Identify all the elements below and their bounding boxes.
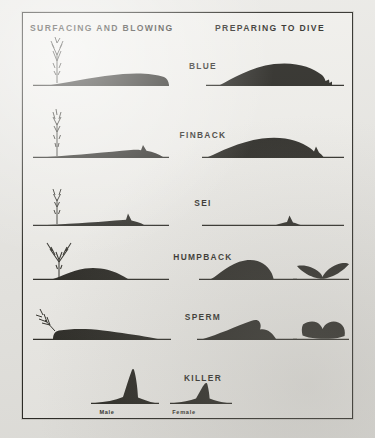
panel-finback-surfacing [31, 107, 171, 165]
humpback-surfacing-silhouette [53, 268, 128, 279]
killer-whale-male-silhouette [95, 369, 155, 403]
panel-sei-surfacing [31, 175, 171, 233]
panel-blue-diving [198, 35, 348, 93]
finback-surfacing-silhouette [47, 145, 163, 157]
blowhole-spout-icon [53, 189, 61, 224]
blowhole-spout-icon [36, 309, 55, 331]
panel-blue-surfacing [31, 35, 171, 93]
sei-diving-silhouette [276, 216, 301, 226]
panel-humpback-fluke [291, 229, 353, 287]
blowhole-spout-icon [53, 109, 61, 156]
panel-humpback-surfacing [31, 229, 171, 287]
sperm-whale-diving-silhouette [203, 320, 276, 339]
blowhole-spout-icon [47, 243, 71, 278]
header-preparing-to-dive: PREPARING TO DIVE [215, 23, 325, 33]
panel-killer-male [89, 353, 179, 411]
sperm-whale-fluke-silhouette [302, 321, 345, 338]
plate-border: SURFACING AND BLOWING PREPARING TO DIVE … [22, 12, 353, 419]
blue-whale-surfacing-silhouette [51, 73, 169, 85]
header-surfacing-and-blowing: SURFACING AND BLOWING [30, 23, 174, 33]
panel-sei-diving [198, 175, 348, 233]
panel-killer-female [168, 353, 258, 411]
killer-male-label: Male [79, 409, 135, 415]
sperm-whale-surfacing-silhouette [53, 329, 158, 339]
killer-female-label: Female [156, 409, 212, 415]
illustration-plate: SURFACING AND BLOWING PREPARING TO DIVE … [0, 0, 375, 438]
sei-surfacing-silhouette [47, 214, 144, 226]
humpback-fluke-silhouette [297, 263, 349, 279]
panel-finback-diving [198, 107, 348, 165]
blue-whale-diving-silhouette [220, 63, 332, 85]
panel-sperm-fluke [291, 289, 353, 347]
finback-diving-silhouette [208, 138, 324, 157]
killer-whale-female-silhouette [174, 383, 227, 403]
panel-sperm-surfacing [31, 289, 176, 347]
blowhole-spout-icon [51, 37, 63, 83]
panel-sperm-diving [193, 289, 303, 347]
humpback-diving-silhouette [211, 260, 274, 279]
panel-humpback-diving [193, 229, 303, 287]
